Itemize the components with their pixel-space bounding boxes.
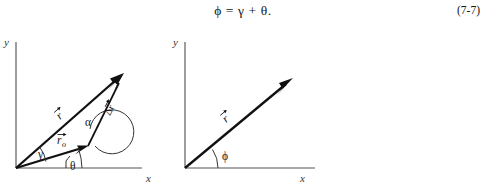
left-r-vector-label: r <box>53 106 69 122</box>
svg-text:r: r <box>53 109 65 121</box>
right-phi-label: ϕ <box>222 150 228 163</box>
left-gamma-label: γ <box>37 148 43 161</box>
left-x-axis-label: x <box>145 172 151 184</box>
left-alpha-label: α <box>85 116 91 128</box>
left-theta-arc <box>79 149 83 169</box>
right-phi-arc <box>213 150 219 169</box>
equation-row: ϕ = γ + θ. (7-7) <box>0 3 486 25</box>
equation-phi-gamma-theta: ϕ = γ + θ. <box>0 3 486 19</box>
right-x-axis-label: x <box>299 172 305 184</box>
right-y-axis-label: y <box>172 36 178 48</box>
right-r-vector <box>185 78 293 168</box>
left-diagram: y x γ <box>3 36 151 184</box>
left-r-naught-vector-label: r o <box>57 133 67 149</box>
figure-page: ϕ = γ + θ. (7-7) y x <box>0 0 486 188</box>
figure-area: y x γ <box>0 28 486 188</box>
right-diagram: y x ϕ r <box>172 36 315 184</box>
left-y-axis-label: y <box>3 36 9 48</box>
right-r-vector-label: r <box>219 109 234 125</box>
svg-text:o: o <box>62 140 66 149</box>
equation-number: (7-7) <box>457 4 480 16</box>
left-theta-label: θ <box>70 160 76 172</box>
left-r-naught-vector <box>16 146 89 169</box>
vector-diagrams-svg: y x γ <box>0 28 486 188</box>
